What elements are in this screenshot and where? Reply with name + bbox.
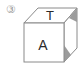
- cube-diagram: T A: [0, 0, 79, 68]
- front-face-letter: A: [38, 37, 48, 53]
- top-face-letter: T: [46, 8, 54, 23]
